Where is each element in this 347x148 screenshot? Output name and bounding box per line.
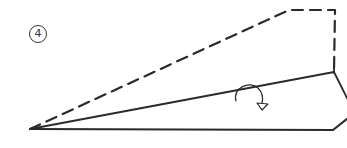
right-edge-upper — [334, 72, 347, 100]
arrowhead-icon — [257, 103, 268, 110]
paper-airplane-fold-diagram — [0, 0, 347, 148]
dashed-fold-outline — [30, 10, 335, 129]
fold-line — [30, 72, 334, 129]
